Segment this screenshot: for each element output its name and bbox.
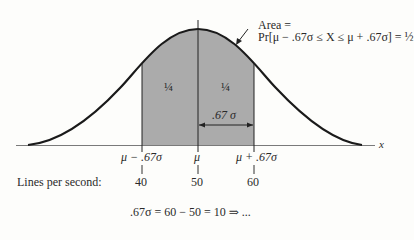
- axis-x-label: x: [379, 138, 384, 150]
- right-quarter-label: ¼: [221, 80, 230, 95]
- row-label: Lines per second:: [17, 175, 102, 190]
- tick-value-60: 60: [247, 175, 259, 190]
- tick-symbol-left: μ − .67σ: [121, 150, 162, 165]
- tick-symbol-mean: μ: [194, 150, 200, 165]
- tick-value-40: 40: [135, 175, 147, 190]
- left-quarter-label: ¼: [164, 80, 173, 95]
- tick-symbol-right: μ + .67σ: [236, 150, 277, 165]
- caption-partial: .67σ = 60 − 50 = 10 ⇒ ...: [130, 205, 251, 220]
- annotation-line-2: Pr[μ − .67σ ≤ X ≤ μ + .67σ] = ½: [258, 30, 414, 45]
- sigma-width-label: .67 σ: [212, 108, 236, 123]
- pointer-arrowhead-icon: [236, 38, 242, 45]
- tick-value-50: 50: [191, 175, 203, 190]
